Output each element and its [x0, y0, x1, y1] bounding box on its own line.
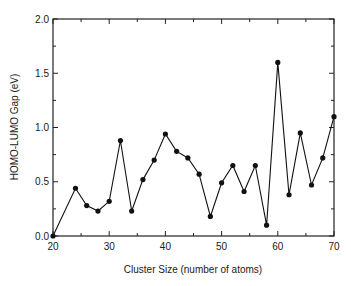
data-point: [140, 177, 145, 182]
data-point: [286, 192, 291, 197]
x-tick-label: 30: [104, 241, 116, 252]
data-point: [253, 163, 258, 168]
data-point: [197, 172, 202, 177]
data-point: [331, 114, 336, 119]
data-point: [208, 214, 213, 219]
x-tick-label: 60: [272, 241, 284, 252]
x-tick-label: 40: [160, 241, 172, 252]
data-point: [73, 186, 78, 191]
data-point: [309, 182, 314, 187]
data-point: [163, 131, 168, 136]
data-point: [129, 208, 134, 213]
data-markers: [50, 60, 336, 239]
data-point: [84, 203, 89, 208]
x-axis-title: Cluster Size (number of atoms): [124, 264, 262, 275]
y-tick-label: 2.0: [35, 14, 49, 25]
plot-frame: [53, 19, 334, 236]
y-axis-title: HOMO-LUMO Gap (eV): [9, 74, 20, 181]
data-point: [219, 180, 224, 185]
data-point: [275, 60, 280, 65]
x-tick-label: 50: [216, 241, 228, 252]
data-point: [118, 138, 123, 143]
y-tick-label: 0.5: [35, 176, 49, 187]
chart: 203040506070 0.00.51.01.52.0 Cluster Siz…: [0, 0, 351, 286]
axis-ticks: [53, 19, 334, 236]
y-tick-label: 0.0: [35, 231, 49, 242]
data-point: [320, 155, 325, 160]
y-tick-label: 1.5: [35, 68, 49, 79]
data-point: [230, 163, 235, 168]
data-point: [152, 157, 157, 162]
data-point: [298, 130, 303, 135]
x-tick-label: 70: [328, 241, 340, 252]
y-tick-label: 1.0: [35, 122, 49, 133]
data-point: [264, 223, 269, 228]
data-point: [241, 189, 246, 194]
data-point: [50, 233, 55, 238]
data-point: [95, 208, 100, 213]
x-tick-label: 20: [47, 241, 59, 252]
x-tick-labels: 203040506070: [47, 241, 340, 252]
data-point: [185, 155, 190, 160]
data-point: [107, 199, 112, 204]
data-point: [174, 149, 179, 154]
plot-border: [53, 19, 334, 236]
series-line: [53, 62, 334, 236]
y-tick-labels: 0.00.51.01.52.0: [35, 14, 49, 242]
